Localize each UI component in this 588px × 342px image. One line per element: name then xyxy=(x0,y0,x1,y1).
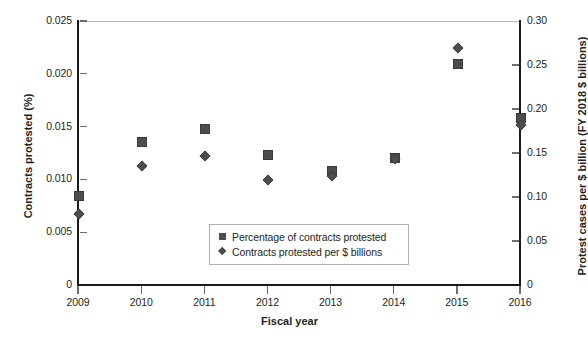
y-axis-left-tick xyxy=(80,20,87,21)
y-axis-left-tick xyxy=(80,126,87,127)
legend-item-percentage: Percentage of contracts protested xyxy=(216,229,402,244)
y-axis-right-title: Protest cases per $ billion (FY 2018 $ b… xyxy=(576,11,588,301)
y-axis-right-tick xyxy=(512,152,519,153)
x-axis-line xyxy=(77,284,521,286)
x-axis-tick xyxy=(330,286,331,294)
y-axis-left-tick xyxy=(80,232,87,233)
x-axis-tick xyxy=(456,286,457,294)
x-axis-tick-label: 2016 xyxy=(490,296,550,308)
legend: Percentage of contracts protested Contra… xyxy=(209,224,409,265)
y-axis-right-tick-label: 0 xyxy=(527,278,583,290)
y-axis-right-tick xyxy=(512,240,519,241)
y-axis-right-tick-label: 0.05 xyxy=(527,234,583,246)
data-point-square xyxy=(200,124,210,134)
y-axis-left-tick-label: 0 xyxy=(16,278,72,290)
x-axis-tick xyxy=(141,286,142,294)
y-axis-right-tick-label: 0.15 xyxy=(527,146,583,158)
legend-item-label: Contracts protested per $ billions xyxy=(232,246,382,258)
y-axis-left-line xyxy=(77,20,79,286)
y-axis-left-tick xyxy=(80,179,87,180)
y-axis-left-title: Contracts protested (%) xyxy=(22,46,34,266)
x-axis-tick xyxy=(267,286,268,294)
square-marker-icon xyxy=(216,233,228,240)
y-axis-left-tick-label: 0.025 xyxy=(16,14,72,26)
x-axis-tick-label: 2010 xyxy=(111,296,171,308)
x-axis-tick-label: 2012 xyxy=(237,296,297,308)
legend-item-per-billion: Contracts protested per $ billions xyxy=(216,244,402,259)
diamond-marker-icon xyxy=(216,248,228,254)
data-point-square xyxy=(263,150,273,160)
y-axis-right-tick-label: 0.30 xyxy=(527,14,583,26)
x-axis-tick-label: 2015 xyxy=(427,296,487,308)
x-axis-tick-label: 2013 xyxy=(301,296,361,308)
data-point-square xyxy=(74,191,84,201)
y-axis-right-tick-label: 0.10 xyxy=(527,190,583,202)
y-axis-right-tick xyxy=(512,108,519,109)
y-axis-right-tick xyxy=(512,196,519,197)
x-axis-tick-label: 2009 xyxy=(48,296,108,308)
y-axis-right-line xyxy=(519,20,521,286)
y-axis-right-tick-label: 0.20 xyxy=(527,102,583,114)
data-point-square xyxy=(453,59,463,69)
y-axis-left-tick xyxy=(80,73,87,74)
y-axis-right-tick-label: 0.25 xyxy=(527,58,583,70)
x-axis-tick xyxy=(393,286,394,294)
x-axis-tick xyxy=(77,286,78,294)
data-point-square xyxy=(137,137,147,147)
y-axis-right-tick xyxy=(512,64,519,65)
x-axis-tick xyxy=(519,286,520,294)
x-axis-title: Fiscal year xyxy=(0,315,579,327)
x-axis-tick xyxy=(204,286,205,294)
x-axis-tick-label: 2014 xyxy=(364,296,424,308)
x-axis-tick-label: 2011 xyxy=(174,296,234,308)
legend-item-label: Percentage of contracts protested xyxy=(232,231,386,243)
